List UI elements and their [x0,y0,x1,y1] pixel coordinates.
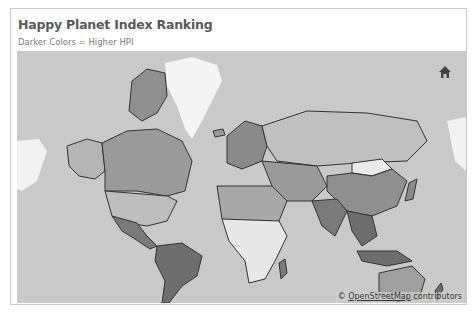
region-europe [227,121,267,169]
region-canada [102,129,192,196]
map-chart-card: Happy Planet Index Ranking Darker Colors… [10,8,467,305]
region-sub-saharan-africa [222,219,287,283]
region-greenland [165,57,222,139]
region-iceland [213,129,225,137]
copyright-symbol: © [338,292,346,301]
region-southeast-asia [347,211,377,246]
region-south-america [155,243,202,303]
region-madagascar [279,259,287,279]
arctic-ice-west [17,139,47,191]
chart-title: Happy Planet Index Ranking [18,17,212,32]
map-attribution: © OpenStreetMap contributors [336,292,464,301]
region-russia [262,111,427,166]
region-indonesia [357,251,412,266]
map-canvas[interactable] [17,51,466,303]
arctic-ice-east [447,117,466,171]
region-alaska [67,139,105,179]
attribution-suffix: contributors [411,292,462,301]
home-button[interactable] [438,65,452,79]
region-india [312,199,347,236]
world-map[interactable]: © OpenStreetMap contributors [17,51,466,303]
openstreetmap-link[interactable]: OpenStreetMap [348,292,411,301]
home-icon [438,65,452,79]
chart-subtitle: Darker Colors = Higher HPI [18,37,133,47]
region-canada-arctic [129,69,167,121]
